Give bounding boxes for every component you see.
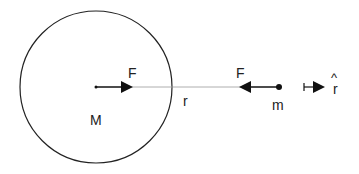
unit-vector-hat: ^ — [331, 70, 338, 85]
separation-label: r — [183, 93, 188, 109]
large-mass-label: M — [90, 112, 102, 128]
arrowhead-right-icon — [121, 81, 133, 93]
force-label-M: F — [128, 65, 137, 81]
unit-vector-arrowhead-icon — [313, 81, 325, 93]
small-mass-label: m — [272, 97, 284, 113]
force-label-m: F — [236, 65, 245, 81]
arrowhead-left-icon — [239, 81, 251, 93]
diagram-canvas: F F M m r r ^ — [0, 0, 359, 174]
